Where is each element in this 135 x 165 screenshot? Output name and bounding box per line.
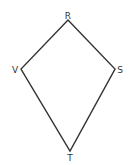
vertex-label-v: V <box>12 65 19 75</box>
vertex-label-r: R <box>65 11 71 21</box>
vertex-label-t: T <box>66 153 73 163</box>
vertex-label-s: S <box>117 65 123 75</box>
kite-shape <box>21 20 115 151</box>
kite-diagram: R S T V <box>0 0 135 165</box>
